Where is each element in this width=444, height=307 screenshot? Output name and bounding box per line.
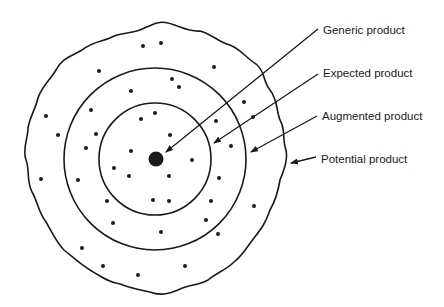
label-augmented-product: Augmented product [322, 110, 422, 122]
label-generic-product: Generic product [323, 24, 405, 36]
scatter-dots [39, 41, 256, 277]
generic-product-core [149, 152, 164, 167]
potential-product-arrow [291, 157, 316, 163]
label-potential-product: Potential product [321, 153, 407, 165]
label-expected-product: Expected product [323, 67, 413, 79]
augmented-product-arrow [251, 116, 317, 152]
